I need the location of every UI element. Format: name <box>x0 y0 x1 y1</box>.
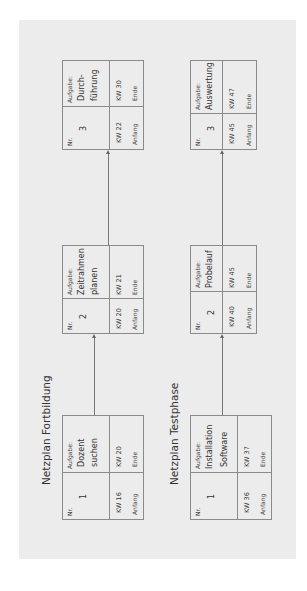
node-row-divider <box>109 416 110 519</box>
start-week: KW 22 <box>115 122 123 143</box>
node-row-divider <box>109 246 110 333</box>
task-label: Aufgabe: <box>194 442 201 469</box>
node-col-divider <box>109 472 144 473</box>
node-number: 3 <box>79 126 88 131</box>
netzplan-node-fortbildung-2: Nr. 2 Aufgabe: Zeitrahmen planen KW 20 A… <box>62 245 144 334</box>
end-week: KW 37 <box>243 446 251 467</box>
task-text-line-2: führung <box>87 70 103 101</box>
node-number: 3 <box>207 126 216 131</box>
arrow-head-icon <box>220 150 224 154</box>
node-col-divider <box>191 113 257 114</box>
task-text-line-2: planen <box>87 268 103 295</box>
end-week: KW 21 <box>115 274 123 295</box>
end-label: Ende <box>245 273 252 288</box>
task-text-line-1: Installation <box>202 425 218 469</box>
end-label: Ende <box>131 86 138 101</box>
task-text-line-1: Auswertung <box>202 62 218 110</box>
node-number: 2 <box>79 314 88 319</box>
end-week: KW 20 <box>115 446 123 467</box>
start-label: Anfang <box>131 124 138 145</box>
task-text-line-1: Probelauf <box>202 250 218 288</box>
netzplan-node-fortbildung-1: Nr. 1 Aufgabe: Dozent suchen KW 16 Anfan… <box>62 415 144 520</box>
node-col-divider <box>191 472 272 473</box>
node-row-divider <box>109 61 110 149</box>
end-week: KW 47 <box>228 88 236 109</box>
start-label: Anfang <box>259 494 266 515</box>
node-row-divider <box>222 61 223 149</box>
task-label: Aufgabe: <box>194 261 201 288</box>
start-label: Anfang <box>245 308 252 329</box>
node-number: 1 <box>79 494 88 499</box>
end-week: KW 45 <box>228 267 236 288</box>
diagram-title-fortbildung: Netzplan Fortbildung <box>40 375 52 485</box>
task-text-line-2: Software <box>217 432 233 467</box>
nr-label: Nr. <box>66 508 73 516</box>
node-col-divider <box>63 106 144 107</box>
connector-1-2 <box>222 338 223 415</box>
task-text-line-2: suchen <box>87 438 103 467</box>
connector-2-3 <box>222 154 223 245</box>
netzplan-node-testphase-2: Nr. 2 Aufgabe: Probelauf KW 40 Anfang KW… <box>190 245 257 334</box>
nr-label: Nr. <box>194 322 201 330</box>
end-label: Ende <box>259 452 266 467</box>
start-week: KW 40 <box>228 306 236 327</box>
node-row-divider <box>237 416 238 519</box>
start-week: KW 36 <box>243 492 251 513</box>
node-number: 1 <box>207 494 216 499</box>
start-week: KW 20 <box>115 308 123 329</box>
task-label: Aufgabe: <box>66 76 73 103</box>
connector-1-2 <box>94 338 95 415</box>
nr-label: Nr. <box>194 138 201 146</box>
arrow-head-icon <box>106 150 110 154</box>
nr-label: Nr. <box>66 322 73 330</box>
end-label: Ende <box>131 452 138 467</box>
netzplan-node-testphase-3: Nr. 3 Aufgabe: Auswertung KW 45 Anfang K… <box>190 60 257 150</box>
node-number: 2 <box>207 310 216 315</box>
start-week: KW 45 <box>228 123 236 144</box>
end-label: Ende <box>245 94 252 109</box>
task-label: Aufgabe: <box>66 268 73 295</box>
start-week: KW 16 <box>115 492 123 513</box>
nr-label: Nr. <box>194 508 201 516</box>
arrow-head-icon <box>220 334 224 338</box>
nr-label: Nr. <box>66 138 73 146</box>
node-col-divider <box>63 472 109 473</box>
end-label: Ende <box>131 280 138 295</box>
start-label: Anfang <box>131 309 138 330</box>
connector-2-3 <box>108 154 109 245</box>
start-label: Anfang <box>131 494 138 515</box>
netzplan-node-testphase-1: Nr. 1 Aufgabe: Installation Software KW … <box>190 415 272 520</box>
task-label: Aufgabe: <box>194 83 201 110</box>
diagram-title-testphase: Netzplan Testphase <box>168 383 180 485</box>
node-col-divider <box>191 291 257 292</box>
start-label: Anfang <box>245 125 252 146</box>
task-label: Aufgabe: <box>66 442 73 469</box>
netzplan-node-fortbildung-3: Nr. 3 Aufgabe: Durch- führung KW 22 Anfa… <box>62 60 144 150</box>
arrow-head-icon <box>92 334 96 338</box>
node-col-divider <box>63 298 144 299</box>
node-row-divider <box>222 246 223 333</box>
end-week: KW 30 <box>115 80 123 101</box>
rotated-page: Netzplan Fortbildung Nr. 1 Aufgabe: Doze… <box>0 0 307 591</box>
